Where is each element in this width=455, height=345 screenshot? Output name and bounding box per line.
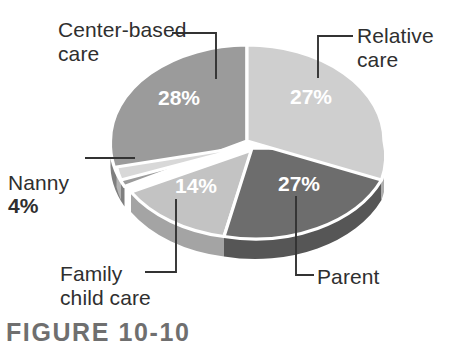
pct-parent: 27% [278, 172, 320, 195]
pct-relative-care: 27% [290, 85, 332, 108]
callout-label-parent: Parent [317, 265, 427, 289]
callout-label-nanny: Nanny 4% [8, 147, 94, 241]
figure-caption: FIGURE 10-10 [6, 318, 191, 345]
pct-nanny: 4% [8, 194, 94, 218]
callout-label-nanny-text: Nanny [8, 171, 69, 194]
pct-center-based-care: 28% [158, 86, 200, 109]
pct-family-child-care: 14% [175, 174, 217, 197]
pie-top-faces [110, 45, 385, 239]
callout-label-relative-care: Relative care [357, 24, 453, 71]
callout-label-family-child-care: Family child care [60, 262, 200, 309]
callout-label-center-based-care: Center-based care [58, 18, 233, 65]
